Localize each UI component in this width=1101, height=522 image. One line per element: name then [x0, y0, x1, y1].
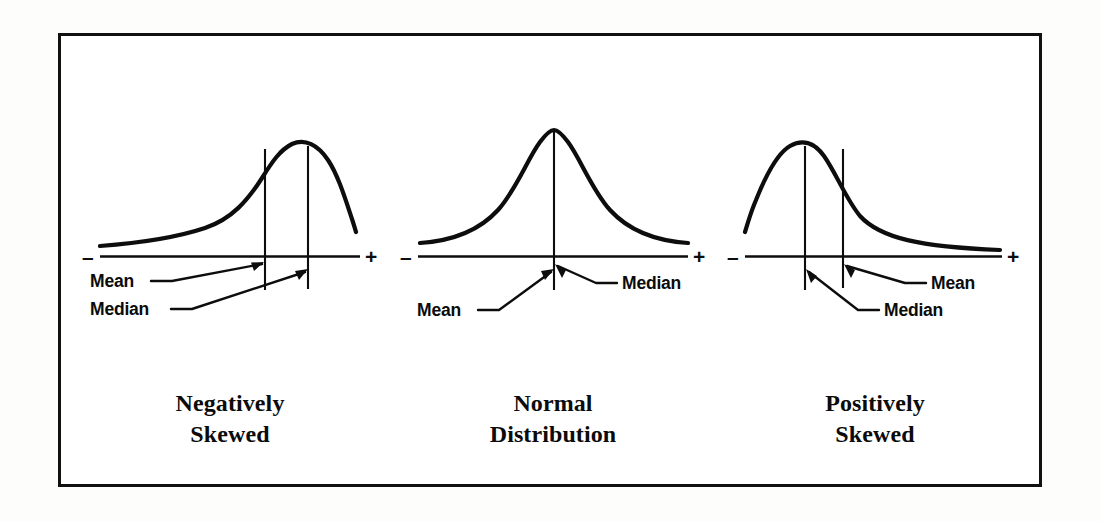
caption-normal-distribution: Normal Distribution — [453, 388, 653, 449]
mean-label-positively-skewed: Mean — [931, 275, 975, 293]
axis-plus-sign-normal-distribution: + — [693, 246, 705, 267]
axis-plus-sign-positively-skewed: + — [1007, 246, 1019, 267]
figure-root: – + – + – + Mean Median Mean Median Medi… — [0, 0, 1101, 522]
median-label-normal-distribution: Median — [622, 275, 681, 293]
mean-label-negatively-skewed: Mean — [90, 273, 134, 291]
mean-label-normal-distribution: Mean — [417, 302, 461, 320]
caption-positively-skewed: Positively Skewed — [775, 388, 975, 449]
caption-negatively-skewed: Negatively Skewed — [130, 388, 330, 449]
median-label-negatively-skewed: Median — [90, 301, 149, 319]
axis-minus-sign-negatively-skewed: – — [82, 246, 94, 267]
axis-plus-sign-negatively-skewed: + — [365, 246, 377, 267]
axis-minus-sign-normal-distribution: – — [400, 246, 412, 267]
axis-minus-sign-positively-skewed: – — [727, 246, 739, 267]
median-label-positively-skewed: Median — [884, 302, 943, 320]
